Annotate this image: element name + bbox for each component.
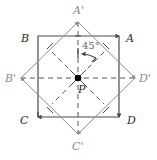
- center-point-p: [75, 75, 82, 82]
- label-p: P: [77, 83, 86, 96]
- label-c: C: [20, 114, 29, 127]
- label-c-prime: C': [72, 140, 83, 153]
- label-b: B: [20, 32, 29, 45]
- angle-label: 45°: [82, 40, 100, 51]
- label-b-prime: B': [4, 72, 16, 85]
- label-d-prime: D': [138, 72, 151, 85]
- label-a: A: [125, 32, 134, 45]
- rotation-diagram: A' B A B' D' C D C' P 45°: [0, 0, 157, 160]
- label-d: D: [126, 114, 136, 127]
- label-a-prime: A': [72, 4, 84, 17]
